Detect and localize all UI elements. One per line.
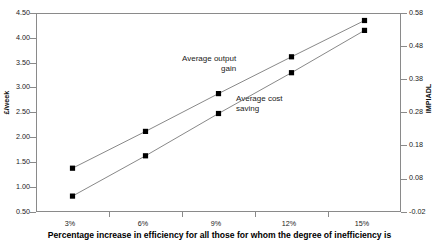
- data-point: [289, 70, 294, 75]
- series-markers-average-output-gain: [70, 18, 367, 171]
- data-point: [143, 129, 148, 134]
- data-point: [362, 18, 367, 23]
- data-point: [289, 54, 294, 59]
- data-point: [143, 153, 148, 158]
- data-point: [362, 28, 367, 33]
- series-layer: [0, 0, 439, 244]
- data-point: [216, 111, 221, 116]
- data-point: [70, 166, 75, 171]
- data-point: [70, 194, 75, 199]
- data-point: [216, 91, 221, 96]
- chart-container: 4.50 4.00 3.50 3.00 2.50 2.00 1.50 1.00 …: [0, 0, 439, 244]
